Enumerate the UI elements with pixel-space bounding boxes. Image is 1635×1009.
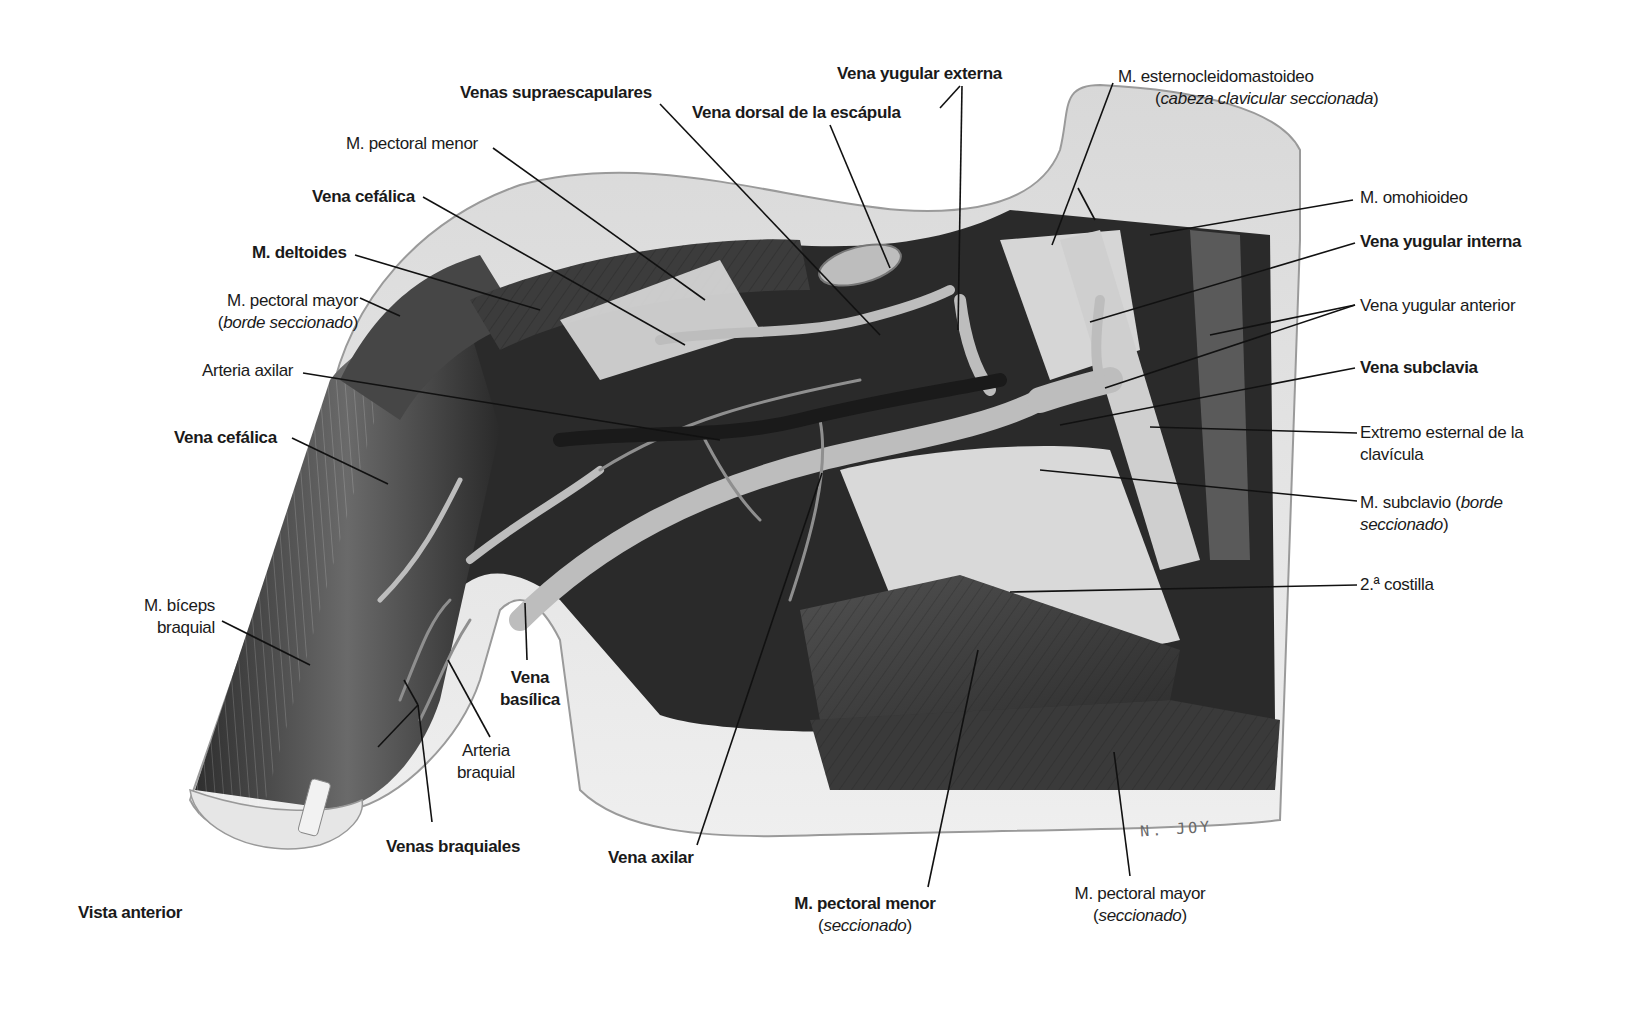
label-m-omohioideo: M. omohioideo [1360, 187, 1468, 209]
label-text: M. pectoral mayor [1050, 883, 1230, 905]
label-m-deltoides: M. deltoides [252, 242, 347, 264]
label-segunda-costilla: 2.ª costilla [1360, 574, 1434, 596]
label-m-pectoral-mayor-left: M. pectoral mayor (borde seccionado) [190, 290, 358, 334]
label-m-pectoral-mayor-bottom: M. pectoral mayor (seccionado) [1050, 883, 1230, 927]
label-line-1: Arteria [450, 740, 522, 762]
label-vena-dorsal-escapula: Vena dorsal de la escápula [692, 102, 901, 124]
label-line-2: braquial [120, 617, 215, 639]
label-line-1: Vena [494, 667, 566, 689]
label-text: M. esternocleidomastoideo [1118, 66, 1378, 88]
label-m-biceps-braquial: M. bíceps braquial [120, 595, 215, 639]
label-vena-cefalica-top: Vena cefálica [312, 186, 415, 208]
label-venas-braquiales: Venas braquiales [386, 836, 520, 858]
label-note: (seccionado) [1050, 905, 1230, 927]
label-line-1: Extremo esternal de la [1360, 422, 1523, 444]
label-extremo-esternal-clavicula: Extremo esternal de la clavícula [1360, 422, 1523, 466]
label-vena-subclavia: Vena subclavia [1360, 357, 1478, 379]
label-arteria-axilar: Arteria axilar [202, 360, 293, 382]
label-line-2: braquial [450, 762, 522, 784]
label-vena-yugular-externa: Vena yugular externa [837, 63, 1002, 85]
label-m-pectoral-menor-top: M. pectoral menor [346, 133, 478, 155]
label-line-2: seccionado) [1360, 514, 1503, 536]
label-line-2: clavícula [1360, 444, 1523, 466]
label-line-1: M. subclavio (borde [1360, 492, 1503, 514]
label-note: (borde seccionado) [190, 312, 358, 334]
label-note: (cabeza clavicular seccionada) [1118, 88, 1378, 110]
label-text: M. pectoral menor [775, 893, 955, 915]
label-m-pectoral-menor-bottom: M. pectoral menor (seccionado) [775, 893, 955, 937]
anatomy-figure: Venas supraescapulares Vena yugular exte… [0, 0, 1635, 1009]
label-vena-yugular-anterior: Vena yugular anterior [1360, 295, 1515, 317]
label-vena-yugular-interna: Vena yugular interna [1360, 231, 1521, 253]
label-venas-supraescapulares: Venas supraescapulares [460, 82, 652, 104]
label-note: (seccionado) [775, 915, 955, 937]
label-vena-basilica: Vena basílica [494, 667, 566, 711]
view-label: Vista anterior [78, 902, 182, 924]
label-arteria-braquial: Arteria braquial [450, 740, 522, 784]
label-text: M. pectoral mayor [190, 290, 358, 312]
label-line-2: basílica [494, 689, 566, 711]
label-m-esternocleidomastoideo: M. esternocleidomastoideo (cabeza clavic… [1118, 66, 1378, 110]
label-vena-axilar: Vena axilar [608, 847, 694, 869]
label-vena-cefalica-left: Vena cefálica [174, 427, 277, 449]
label-m-subclavio: M. subclavio (borde seccionado) [1360, 492, 1503, 536]
label-line-1: M. bíceps [120, 595, 215, 617]
